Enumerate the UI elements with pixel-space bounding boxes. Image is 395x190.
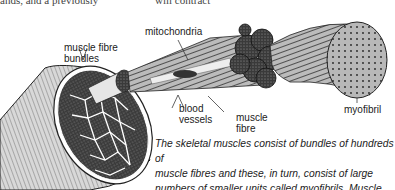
label-muscle-fibre: muscle fibre [236,112,268,134]
label-muscle-fibre-bundles: muscle fibre bundles [64,42,118,64]
label-mitochondria: mitochondria [145,26,202,37]
caption-line: numbers of smaller units called myofibri… [155,181,395,190]
figure-caption: The skeletal muscles consist of bundles … [155,136,395,190]
caption-line: muscle fibres and these, in turn, consis… [155,166,395,181]
label-blood-vessels: blood vessels [179,103,212,125]
myofibril-drawing [270,22,387,98]
caption-line: The skeletal muscles consist of bundles … [155,136,395,166]
label-myofibril: myofibril [344,104,381,115]
